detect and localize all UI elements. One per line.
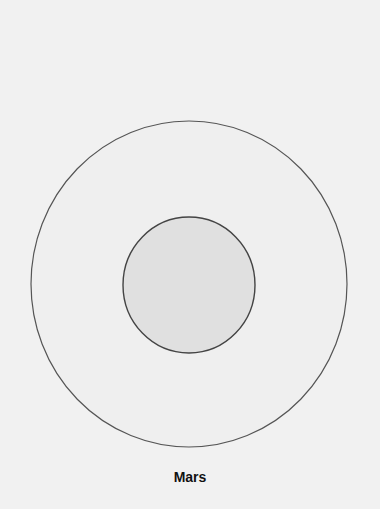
core-circle	[123, 217, 255, 353]
planet-diagram	[0, 0, 380, 509]
planet-label: Mars	[0, 469, 380, 485]
